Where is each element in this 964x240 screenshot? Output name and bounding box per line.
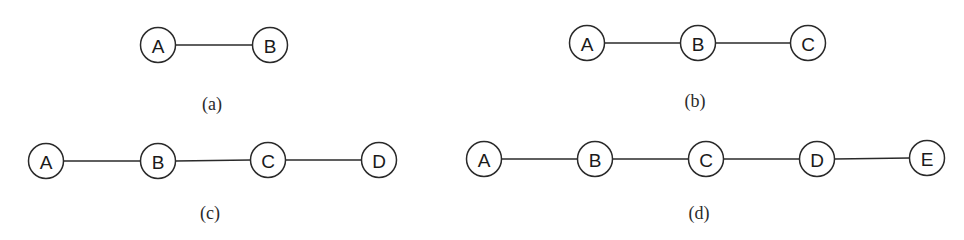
node-b: B bbox=[141, 144, 176, 179]
node-d: D bbox=[800, 142, 835, 177]
node-b: B bbox=[681, 26, 716, 61]
panel-caption: (c) bbox=[200, 203, 220, 224]
node-label: D bbox=[372, 151, 386, 172]
node-c: C bbox=[689, 142, 724, 177]
panel-caption: (d) bbox=[689, 203, 710, 224]
node-label: D bbox=[810, 150, 824, 171]
node-a: A bbox=[141, 28, 176, 63]
node-label: C bbox=[801, 34, 815, 55]
node-a: A bbox=[467, 142, 502, 177]
node-b: B bbox=[578, 142, 613, 177]
node-a: A bbox=[570, 26, 605, 61]
panel-b: ABC(b) bbox=[570, 26, 826, 113]
edge-b-c bbox=[176, 160, 251, 161]
figure-canvas: AB(a)ABC(b)ABCD(c)ABCDE(d) bbox=[0, 0, 964, 240]
node-c: C bbox=[251, 143, 286, 178]
panel-caption: (a) bbox=[202, 94, 222, 115]
node-label: A bbox=[40, 152, 53, 173]
node-label: B bbox=[589, 150, 602, 171]
panel-c: ABCD(c) bbox=[29, 143, 397, 225]
node-label: C bbox=[699, 150, 713, 171]
node-label: A bbox=[152, 36, 165, 57]
panel-a: AB(a) bbox=[141, 28, 288, 116]
node-d: D bbox=[362, 143, 397, 178]
node-label: A bbox=[581, 34, 594, 55]
panel-d: ABCDE(d) bbox=[467, 141, 945, 225]
node-label: B bbox=[152, 152, 165, 173]
node-label: A bbox=[478, 150, 491, 171]
node-e: E bbox=[910, 141, 945, 176]
panel-caption: (b) bbox=[685, 91, 706, 112]
path-graph-figure: AB(a)ABC(b)ABCD(c)ABCDE(d) bbox=[0, 0, 964, 240]
node-b: B bbox=[253, 28, 288, 63]
node-label: B bbox=[264, 36, 277, 57]
edge-d-e bbox=[835, 158, 910, 159]
node-label: B bbox=[692, 34, 705, 55]
node-c: C bbox=[791, 26, 826, 61]
node-label: E bbox=[921, 149, 934, 170]
node-label: C bbox=[261, 151, 275, 172]
node-a: A bbox=[29, 144, 64, 179]
